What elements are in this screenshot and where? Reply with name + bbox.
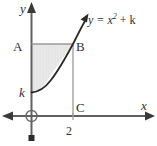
- point-label-b: B: [76, 40, 85, 53]
- x-tick-label-2: 2: [66, 125, 72, 137]
- y-axis-bottom-marker: [29, 135, 35, 141]
- curve-equation-label: y = x2 + k: [88, 14, 136, 26]
- y-axis-top-arrowhead: [27, 2, 36, 13]
- x-axis-left-arrowhead: [2, 112, 13, 121]
- equation-suffix: + k: [117, 13, 136, 27]
- y-intercept-label: k: [19, 86, 25, 99]
- point-label-a: A: [13, 40, 22, 53]
- point-label-c: C: [76, 101, 85, 114]
- y-axis-label: y: [20, 2, 26, 15]
- equation-prefix: y = x: [88, 13, 113, 27]
- x-axis-label: x: [141, 99, 147, 112]
- math-figure: y x y = x2 + k A B C k 2: [0, 0, 157, 146]
